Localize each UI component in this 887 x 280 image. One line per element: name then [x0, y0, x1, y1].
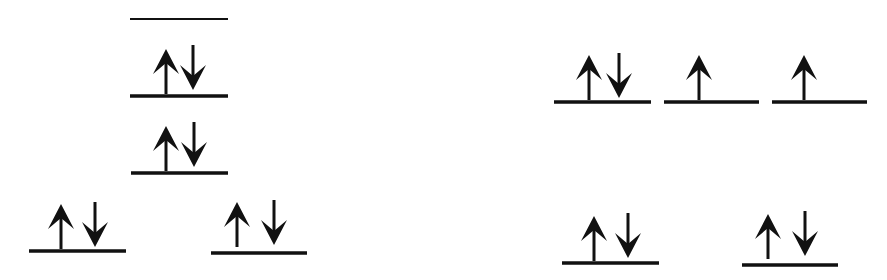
- spin-up-arrow-icon: [153, 49, 179, 94]
- spin-up-arrow-icon: [224, 202, 250, 247]
- spin-down-arrow-icon: [792, 211, 818, 256]
- orbital-diagram: [0, 0, 887, 280]
- spin-down-arrow-icon: [82, 202, 108, 247]
- orbital-level-R1: [554, 53, 651, 102]
- orbital-level-L2: [130, 45, 228, 96]
- spin-down-arrow-icon: [615, 213, 641, 258]
- spin-up-arrow-icon: [755, 214, 781, 259]
- orbital-level-R2: [664, 55, 759, 102]
- spin-down-arrow-icon: [180, 45, 206, 90]
- orbital-level-L4: [29, 202, 126, 251]
- orbital-level-L3: [131, 122, 228, 173]
- spin-down-arrow-icon: [181, 122, 207, 167]
- orbital-level-L5: [211, 200, 307, 253]
- spin-up-arrow-icon: [153, 126, 179, 171]
- right-orbital-group: [554, 53, 867, 265]
- spin-up-arrow-icon: [791, 55, 817, 100]
- spin-up-arrow-icon: [576, 55, 602, 100]
- spin-up-arrow-icon: [48, 204, 74, 249]
- orbital-level-R4: [562, 213, 659, 263]
- spin-down-arrow-icon: [606, 53, 632, 98]
- spin-down-arrow-icon: [261, 200, 287, 245]
- orbital-level-R5: [742, 211, 838, 265]
- orbital-level-R3: [772, 55, 867, 102]
- left-orbital-group: [29, 19, 307, 253]
- spin-up-arrow-icon: [581, 216, 607, 261]
- spin-up-arrow-icon: [686, 55, 712, 100]
